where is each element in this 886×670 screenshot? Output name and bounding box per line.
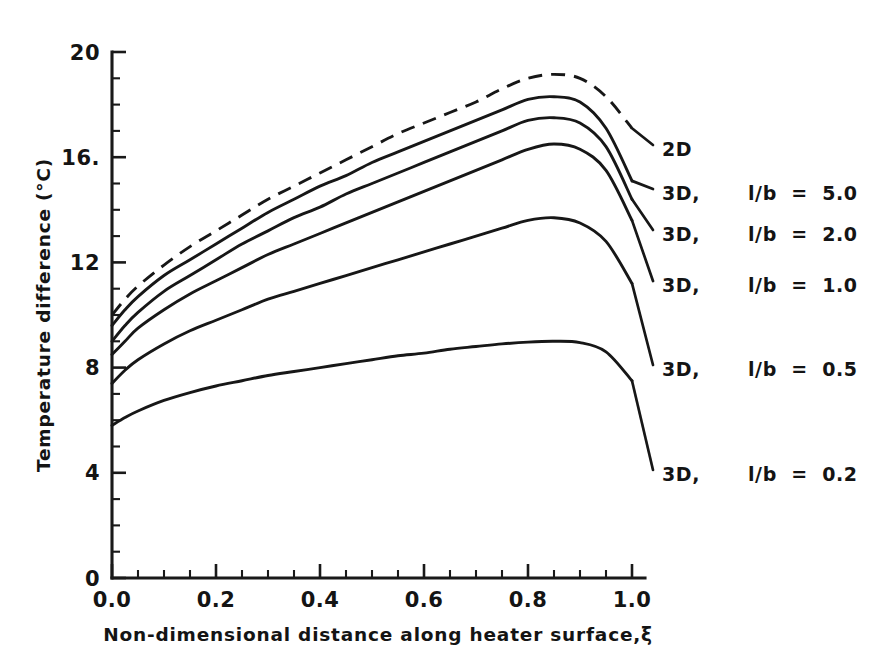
legend-label-5: 3D,: [662, 463, 700, 485]
y-tick-label: 4: [85, 461, 100, 485]
x-tick-label: 0.2: [197, 588, 236, 612]
x-tick-label: 0.8: [509, 588, 548, 612]
x-axis-ticks: [112, 564, 632, 578]
curve-3d-l-b-1-0: [112, 144, 632, 354]
curve-3d-l-b-0-2: [112, 341, 632, 425]
x-tick-label: 0.4: [301, 588, 340, 612]
y-tick-label: 8: [85, 356, 100, 380]
x-tick-label: 0.0: [93, 588, 132, 612]
legend-ratio-2: l/b = 2.0: [748, 223, 858, 245]
y-tick-label: 12: [70, 251, 100, 275]
legend-leader-3d-l-b-0-5: [632, 283, 653, 365]
curve-2d: [112, 74, 632, 315]
legend-leader-3d-l-b-5-0: [632, 181, 653, 189]
axes: [112, 52, 645, 578]
legend-leader-lines: [632, 128, 653, 470]
legend-leader-2d: [632, 128, 653, 145]
y-axis-tick-labels: 0481216.20: [61, 41, 100, 591]
curve-3d-l-b-2-0: [112, 118, 632, 342]
temperature-difference-line-chart: 0481216.20 0.00.20.40.60.81.0 Non-dimens…: [0, 0, 886, 670]
y-axis-title: Temperature difference (°C): [33, 158, 54, 472]
legend-label-2: 3D,: [662, 223, 700, 245]
legend-label-1: 3D,: [662, 182, 700, 204]
legend-leader-3d-l-b-1-0: [632, 220, 653, 281]
data-curves: [112, 74, 632, 425]
legend-ratio-5: l/b = 0.2: [748, 463, 858, 485]
legend-ratio-1: l/b = 5.0: [748, 182, 858, 204]
legend-leader-3d-l-b-0-2: [632, 381, 653, 470]
legend-label-3: 3D,: [662, 274, 700, 296]
legend-label-0: 2D: [662, 138, 692, 160]
x-tick-label: 1.0: [613, 588, 652, 612]
x-axis-title: Non-dimensional distance along heater su…: [103, 624, 653, 645]
legend-ratio-4: l/b = 0.5: [748, 358, 858, 380]
y-tick-label: 0: [85, 567, 100, 591]
legend-label-4: 3D,: [662, 358, 700, 380]
x-tick-label: 0.6: [405, 588, 444, 612]
x-axis-tick-labels: 0.00.20.40.60.81.0: [93, 588, 652, 612]
y-tick-label: 20: [70, 41, 100, 65]
figure-container: 0481216.20 0.00.20.40.60.81.0 Non-dimens…: [0, 0, 886, 670]
legend-ratio-3: l/b = 1.0: [748, 274, 858, 296]
y-tick-label: 16.: [61, 146, 100, 170]
